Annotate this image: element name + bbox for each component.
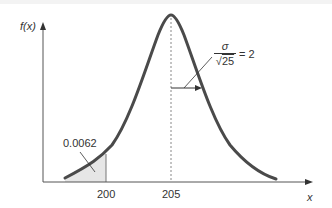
sigma-symbol: σ <box>222 40 229 52</box>
sqrt-argument: 25 <box>222 55 234 67</box>
tail-area-label: 0.0062 <box>63 137 97 149</box>
x-axis-arrow-icon <box>305 179 313 185</box>
normal-curve-chart <box>0 0 332 208</box>
fraction-bar <box>214 53 236 54</box>
sqrt-denominator: √25 <box>216 55 234 67</box>
y-axis-arrow-icon <box>40 22 46 30</box>
tick-label-200: 200 <box>97 188 115 200</box>
tick-label-205: 205 <box>162 188 180 200</box>
x-axis-label: x <box>307 191 313 203</box>
std-error-label: σ √25 = 2 <box>214 40 255 67</box>
std-label-leader <box>184 57 212 88</box>
equals-value: = 2 <box>239 48 255 60</box>
y-axis-label: f(x) <box>20 20 36 32</box>
